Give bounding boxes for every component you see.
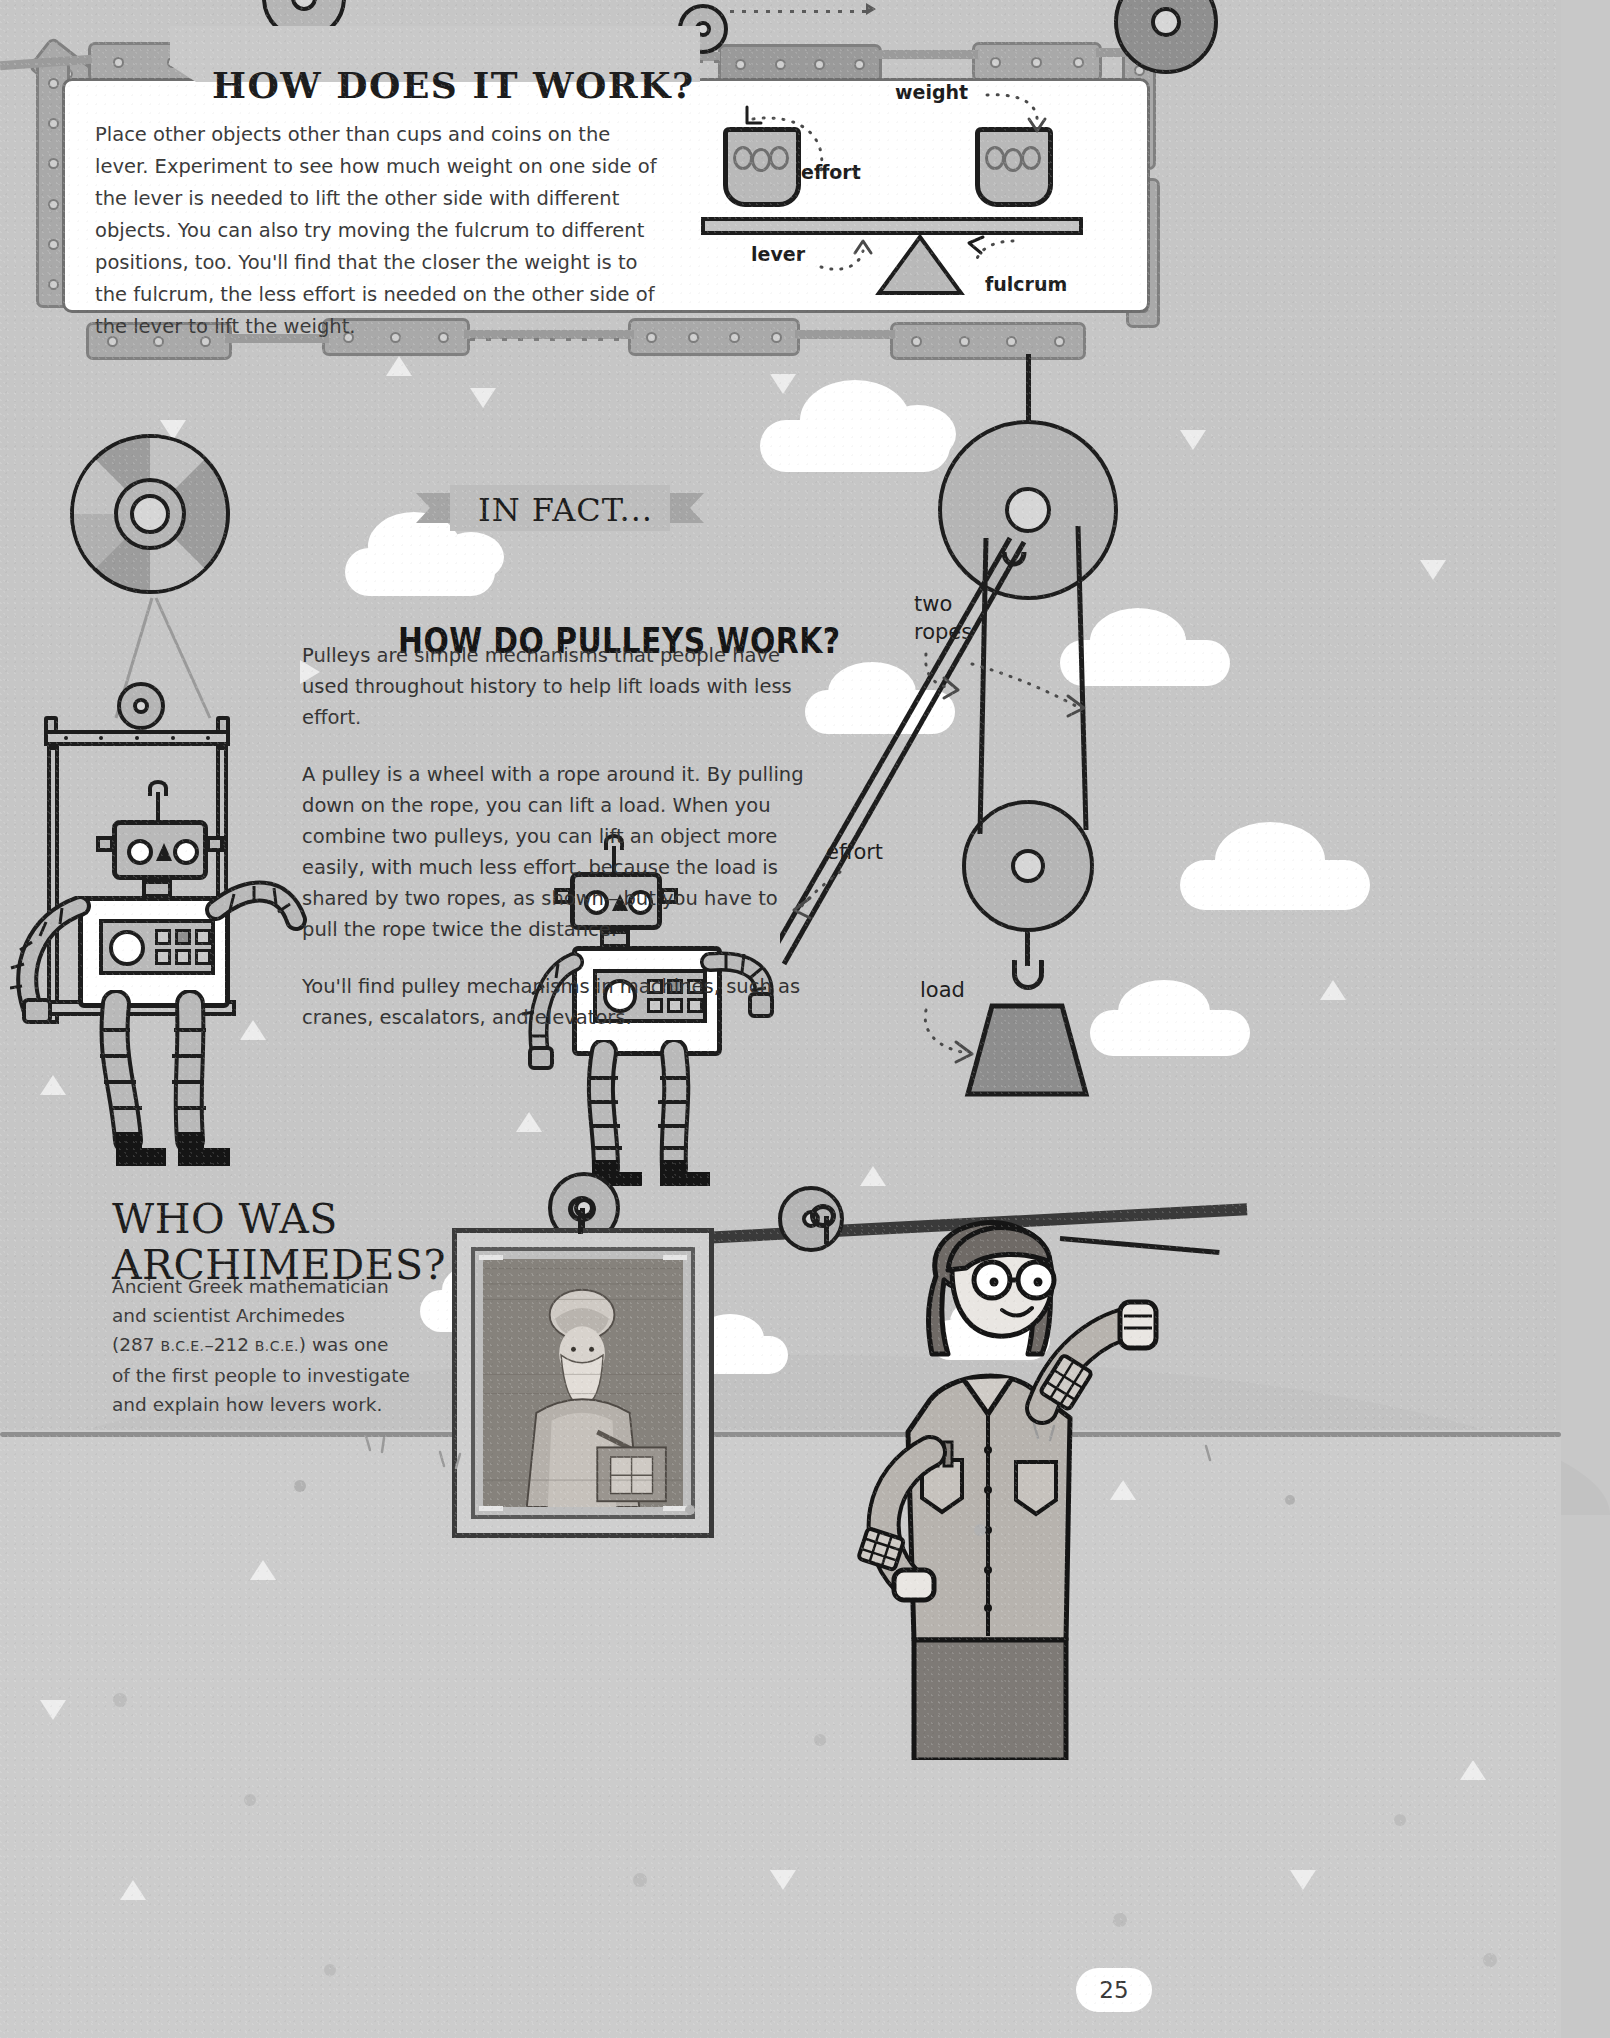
frame-strip [972, 42, 1102, 82]
swing-cables [60, 588, 320, 848]
label-effort-pulley: effort [826, 840, 883, 864]
pulley-ropes [780, 430, 1120, 1050]
robot-legs [80, 990, 280, 1190]
label-two-ropes-line2: ropes [914, 620, 972, 644]
robot-ear-right [206, 836, 224, 852]
robot-antenna [156, 792, 160, 824]
archimedes-body-line2: and scientist Archimedes [112, 1301, 412, 1330]
cloud [1215, 822, 1325, 898]
load-leader-line [914, 1004, 1024, 1084]
fulcrum-leader-line [957, 235, 1027, 285]
how-it-works-panel: Place other objects other than cups and … [62, 78, 1150, 313]
robot-nose [156, 843, 172, 861]
frame-ornament-tr [663, 1255, 687, 1260]
lever-diagram: weight effort lever fulcrum [665, 77, 1125, 307]
swing-pulley [117, 682, 165, 730]
frame-rail [795, 330, 895, 339]
frame-strip [890, 322, 1086, 360]
arch-date-mid: –212 [204, 1334, 254, 1355]
pulleys-paragraph-3: You'll find pulley mechanisms in machine… [302, 971, 812, 1033]
robot2-legs [568, 1040, 758, 1190]
archimedes-body-line4: of the first people to investigate [112, 1361, 412, 1390]
swing-top-bar [44, 730, 230, 746]
crane-hook-mid [810, 1204, 836, 1228]
portrait-rope [578, 1210, 583, 1234]
arrowhead [866, 3, 876, 15]
arch-date-pre: (287 [112, 1334, 160, 1355]
cloud [1118, 980, 1210, 1042]
swing-knob-right [216, 716, 230, 734]
robot-head [112, 820, 208, 880]
robot-antenna-tip [148, 780, 168, 796]
arch-date-bce-1: B.C.E. [160, 1338, 204, 1354]
how-it-works-title: HOW DOES IT WORK? [212, 64, 695, 106]
archimedes-body-line3: (287 B.C.E.–212 B.C.E.) was one [112, 1330, 412, 1361]
two-ropes-leader-lines [912, 648, 1112, 728]
arch-date-bce-2: B.C.E. [255, 1338, 299, 1354]
robot-eye-left [127, 839, 153, 865]
coins-right [985, 146, 1049, 172]
in-fact-label: IN FACT... [478, 491, 653, 529]
archimedes-title-line1: WHO WAS [112, 1196, 442, 1242]
cloud [438, 532, 504, 582]
label-weight: weight [895, 81, 968, 103]
swing-knob-left [44, 716, 58, 734]
ground-details-lower [0, 1620, 1561, 2038]
archimedes-body-line1: Ancient Greek mathematician [112, 1272, 412, 1301]
pulleys-paragraph-1: Pulleys are simple mechanisms that peopl… [302, 640, 812, 733]
effort-leader-line [741, 101, 837, 181]
frame-rail [878, 50, 978, 59]
robot-ear-left [96, 836, 114, 852]
dotted-path [730, 10, 870, 13]
pulleys-body: Pulleys are simple mechanisms that peopl… [302, 640, 812, 1059]
ground-details [0, 1390, 1561, 1590]
label-load: load [920, 978, 965, 1002]
spoked-wheel-left [68, 432, 232, 596]
label-lever: lever [751, 243, 805, 265]
how-it-works-body: Place other objects other than cups and … [95, 119, 665, 343]
frame-ornament-tl [479, 1255, 503, 1260]
weight-leader-line [983, 85, 1103, 145]
lever-leader-line [815, 237, 895, 287]
arch-date-post: ) was one [299, 1334, 389, 1355]
robot-eye-right [173, 839, 199, 865]
label-two-ropes-line1: two [914, 592, 952, 616]
pulleys-paragraph-2: A pulley is a wheel with a rope around i… [302, 759, 812, 945]
page-number: 25 [1076, 1968, 1152, 2012]
